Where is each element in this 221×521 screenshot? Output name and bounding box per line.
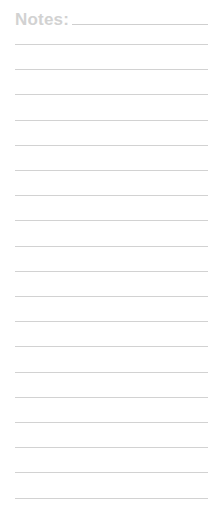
ruled-line (15, 145, 208, 146)
ruled-line (15, 170, 208, 171)
ruled-line (15, 195, 208, 196)
ruled-line (15, 472, 208, 473)
ruled-line (15, 120, 208, 121)
ruled-line (15, 498, 208, 499)
ruled-line (15, 220, 208, 221)
ruled-line (15, 246, 208, 247)
ruled-line (15, 44, 208, 45)
ruled-line (15, 321, 208, 322)
ruled-line (15, 271, 208, 272)
ruled-line (15, 94, 208, 95)
ruled-line (15, 372, 208, 373)
ruled-line (15, 447, 208, 448)
ruled-line (15, 422, 208, 423)
ruled-line (15, 69, 208, 70)
ruled-line (15, 397, 208, 398)
ruled-lines (15, 0, 208, 521)
ruled-line (15, 346, 208, 347)
ruled-line (15, 296, 208, 297)
notes-page: Notes: (0, 0, 221, 521)
